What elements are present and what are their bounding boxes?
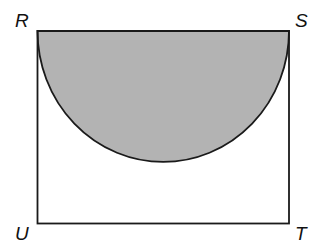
vertex-label-u: U bbox=[15, 223, 29, 244]
shaded-semicircle bbox=[38, 31, 290, 162]
vertex-label-s: S bbox=[295, 10, 308, 31]
vertex-label-r: R bbox=[15, 10, 29, 31]
rectangle-semicircle-diagram: R S T U bbox=[0, 0, 325, 251]
vertex-label-t: T bbox=[295, 223, 308, 244]
